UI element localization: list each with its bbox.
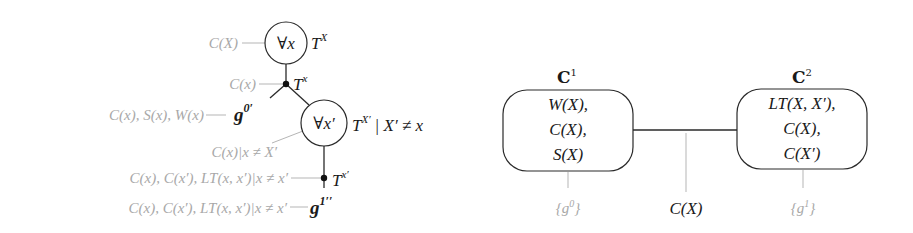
root-node-label: TX [311,31,328,53]
junction-2-evidence-label: C(x), C(x′), LT(x, x′)|x ≠ x′ [129,170,288,187]
cluster-c1-group-label: {g0} [556,198,581,216]
leaf-g0-evidence-label: C(x), S(x), W(x) [109,107,204,124]
diagram-canvas: ∀x TX C(X) Tx C(x) g0′ C(x), S(x), W(x) … [0,0,913,233]
root-evidence-label: C(X) [209,35,238,52]
junction-2-label: Tx′ [332,168,349,190]
inner-node-symbol: ∀x′ [313,114,335,133]
cluster-c2-line-3: C(X′) [784,144,821,163]
left-tree-diagram: ∀x TX C(X) Tx C(x) g0′ C(x), S(x), W(x) … [109,22,423,218]
cluster-c1-line-3: S(X) [553,145,584,164]
junction-1-dot [283,81,289,87]
separator-label: C(X) [669,199,702,218]
junction-2-dot [321,175,327,181]
cluster-c1-title: C1 [557,67,577,87]
inner-node-evidence-label: C(x)|x ≠ X′ [211,144,277,161]
cluster-c1-line-2: C(X), [549,120,586,139]
root-node-symbol: ∀x [277,34,295,53]
cluster-c2: C2 LT(X, X′), C(X), C(X′) {g1} [737,67,867,216]
cluster-c1: C1 W(X), C(X), S(X) {g0} [503,67,633,216]
cluster-c2-group-label: {g1} [791,198,816,216]
inner-node-label: TX′| X′ ≠ x [352,113,423,135]
leaf-g1-label: g1′′ [309,194,332,218]
junction-1-label: Tx [293,72,307,94]
cluster-c2-line-1: LT(X, X′), [767,94,835,113]
cluster-c2-title: C2 [792,67,812,87]
junction-1-evidence-label: C(x) [229,76,256,93]
leaf-g0-label: g0′ [233,101,253,125]
leaf-g1-evidence-label: C(x), C(x′), LT(x, x′)|x ≠ x′ [128,200,287,217]
cluster-c2-line-2: C(X), [783,119,820,138]
cluster-c1-line-1: W(X), [548,95,588,114]
connector-evidence-inner [272,131,303,143]
right-cluster-graph: C1 W(X), C(X), S(X) {g0} C2 LT(X, X′), C… [503,67,867,218]
